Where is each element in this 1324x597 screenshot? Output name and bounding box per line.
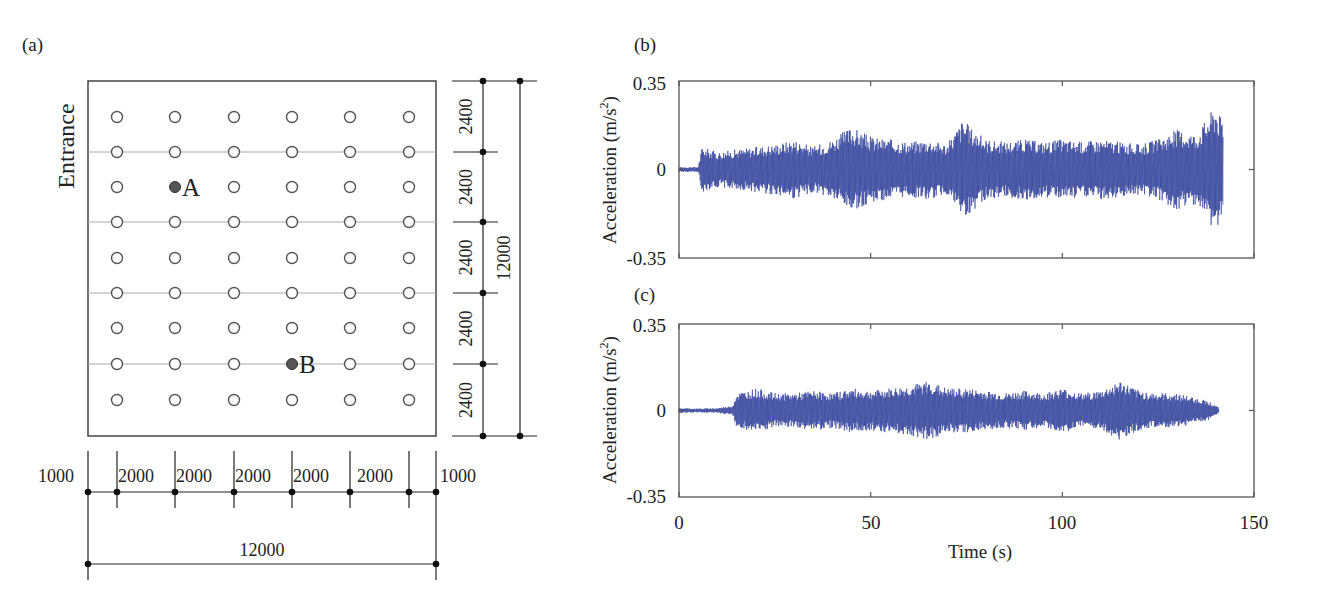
x-axis-label: Time (s)	[948, 541, 1012, 563]
y-axis-label-c: Acceleration (m/s2)	[597, 336, 621, 484]
ytick-zero: 0	[657, 159, 667, 180]
ytick-bottom: -0.35	[626, 486, 666, 507]
sensor-circle	[170, 147, 181, 158]
y-axis-label-b: Acceleration (m/s2)	[597, 96, 621, 244]
sensor-circle	[287, 253, 298, 264]
right-dim-label: 2400	[456, 169, 476, 205]
bottom-dim-label: 2000	[293, 466, 329, 486]
sensor-circle	[170, 112, 181, 123]
ytick-bottom: -0.35	[626, 248, 666, 269]
panel-label-c: (c)	[634, 284, 655, 306]
sensor-circle	[404, 253, 415, 264]
point-a-label: A	[182, 174, 200, 201]
bottom-dim-label: 2000	[357, 466, 393, 486]
sensor-circle	[287, 288, 298, 299]
point-b-marker	[287, 359, 298, 370]
sensor-circle	[229, 147, 240, 158]
sensor-circle	[229, 288, 240, 299]
sensor-circle	[404, 323, 415, 334]
panel-label-b: (b)	[634, 34, 656, 56]
sensor-circle	[229, 112, 240, 123]
sensor-circle	[170, 359, 181, 370]
sensor-circle	[287, 395, 298, 406]
xtick-50: 50	[862, 512, 881, 533]
sensor-circle	[404, 112, 415, 123]
floor-plan: AB Entrance	[53, 81, 436, 436]
sensor-circle	[404, 395, 415, 406]
sensor-circle	[404, 359, 415, 370]
floor-gridlines	[88, 152, 436, 364]
sensor-circle	[345, 288, 356, 299]
right-dim-label: 2400	[456, 382, 476, 418]
ytick-top: 0.35	[633, 315, 666, 336]
right-dim-label: 2400	[456, 240, 476, 276]
sensor-circle	[229, 395, 240, 406]
floor-outline	[88, 81, 436, 436]
sensor-circle	[345, 182, 356, 193]
sensor-circle	[170, 253, 181, 264]
sensor-circle	[229, 182, 240, 193]
bottom-dim-label: 1000	[440, 466, 476, 486]
sensor-circle	[345, 323, 356, 334]
chart-c: 0.35 0 -0.35 Acceleration (m/s2) 0 50 10…	[597, 315, 1268, 563]
bottom-dimensions: 100020002000200020002000100012000	[38, 451, 476, 580]
sensor-circle	[112, 112, 123, 123]
chart-b: 0.35 0 -0.35 Acceleration (m/s2)	[597, 73, 1254, 269]
xtick-150: 150	[1240, 512, 1269, 533]
measurement-points: AB	[170, 174, 316, 378]
sensor-circle	[287, 323, 298, 334]
right-dim-total: 12000	[494, 236, 514, 281]
sensor-circle	[287, 147, 298, 158]
sensor-circle	[345, 217, 356, 228]
entrance-label: Entrance	[53, 103, 79, 188]
sensor-circle	[404, 182, 415, 193]
sensor-circle	[345, 253, 356, 264]
panel-label-a: (a)	[22, 34, 43, 56]
sensor-circle	[345, 147, 356, 158]
sensor-circle	[345, 112, 356, 123]
sensor-circle	[112, 288, 123, 299]
sensor-circle	[345, 359, 356, 370]
sensor-circle	[287, 112, 298, 123]
sensor-circle	[170, 323, 181, 334]
sensor-circle	[404, 288, 415, 299]
sensor-circle	[112, 395, 123, 406]
xtick-100: 100	[1048, 512, 1077, 533]
sensor-circle	[345, 395, 356, 406]
right-dim-label: 2400	[456, 311, 476, 347]
sensor-circle	[112, 323, 123, 334]
point-b-label: B	[299, 351, 316, 378]
sensor-circle	[287, 217, 298, 228]
bottom-dim-total: 12000	[240, 540, 285, 560]
sensor-circle	[170, 288, 181, 299]
sensor-circle	[229, 253, 240, 264]
sensor-circle	[112, 359, 123, 370]
bottom-dim-label: 2000	[235, 466, 271, 486]
sensor-circle	[112, 182, 123, 193]
bottom-dim-label: 2000	[118, 466, 154, 486]
sensor-circle	[404, 147, 415, 158]
sensor-circle	[112, 253, 123, 264]
bottom-dim-label: 1000	[38, 466, 74, 486]
sensor-circle	[404, 217, 415, 228]
ytick-top: 0.35	[633, 73, 666, 94]
sensor-circle	[229, 359, 240, 370]
sensor-circle	[229, 217, 240, 228]
sensor-circle	[170, 395, 181, 406]
figure: (a) (b) (c) AB Entrance 2400240024002400…	[0, 0, 1324, 597]
right-dimensions: 2400240024002400240012000	[452, 78, 537, 440]
acceleration-trace-a	[679, 112, 1223, 225]
sensor-circle	[112, 217, 123, 228]
ytick-zero: 0	[657, 400, 667, 421]
sensor-circle	[229, 323, 240, 334]
measurement-grid	[112, 112, 415, 406]
right-dim-label: 2400	[456, 99, 476, 135]
sensor-circle	[287, 182, 298, 193]
xtick-0: 0	[674, 512, 684, 533]
bottom-dim-label: 2000	[176, 466, 212, 486]
sensor-circle	[112, 147, 123, 158]
point-a-marker	[170, 182, 181, 193]
sensor-circle	[170, 217, 181, 228]
acceleration-trace-b	[679, 382, 1219, 439]
